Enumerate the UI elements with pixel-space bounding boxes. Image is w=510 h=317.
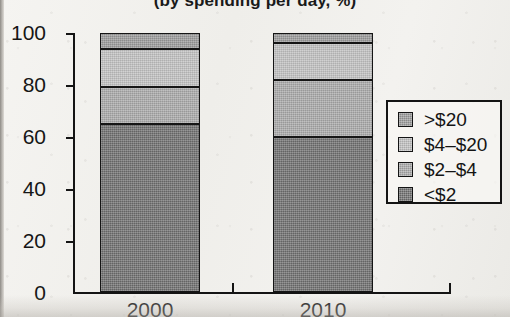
stacked-bar-2010[interactable] (273, 33, 373, 292)
legend-label-2-to-4: $2–$4 (424, 160, 477, 179)
legend-swatch-under-2 (398, 187, 413, 202)
legend-item-2-to-4[interactable]: $2–$4 (398, 160, 477, 179)
legend-label-4-to-20: $4–$20 (424, 135, 487, 154)
bar-segment-2000-420[interactable] (100, 49, 200, 88)
y-tick-label-40: 40 (0, 178, 46, 199)
bar-segment-2000-2[interactable] (100, 124, 200, 292)
x-axis-right-cap (449, 283, 451, 293)
y-tick-label-100: 100 (0, 22, 46, 43)
legend-swatch-4-to-20 (398, 137, 413, 152)
bar-segment-2000-20[interactable] (100, 33, 200, 49)
chart-legend: >$20 $4–$20 $2–$4 <$2 (386, 100, 502, 204)
x-tick-mark-mid (232, 283, 234, 292)
x-axis-line (73, 292, 451, 294)
legend-swatch-over-20 (398, 112, 413, 127)
bar-segment-2010-420[interactable] (273, 43, 373, 79)
stacked-bar-2000[interactable] (100, 33, 200, 292)
legend-swatch-2-to-4 (398, 162, 413, 177)
chart-plot-area: 100 80 60 40 20 0 2000 2010 >$20 $4–$20 … (0, 0, 510, 317)
y-tick-label-20: 20 (0, 230, 46, 251)
scan-gradient-bottom (0, 295, 510, 317)
y-axis-line (73, 33, 75, 293)
legend-label-under-2: <$2 (424, 185, 456, 204)
legend-item-4-to-20[interactable]: $4–$20 (398, 135, 487, 154)
bar-segment-2010-20[interactable] (273, 33, 373, 43)
legend-item-over-20[interactable]: >$20 (398, 110, 467, 129)
legend-item-under-2[interactable]: <$2 (398, 185, 456, 204)
bar-segment-2010-2[interactable] (273, 137, 373, 292)
bar-segment-2000-24[interactable] (100, 87, 200, 123)
y-tick-label-60: 60 (0, 126, 46, 147)
bar-segment-2010-24[interactable] (273, 80, 373, 137)
y-tick-label-80: 80 (0, 74, 46, 95)
legend-label-over-20: >$20 (424, 110, 467, 129)
